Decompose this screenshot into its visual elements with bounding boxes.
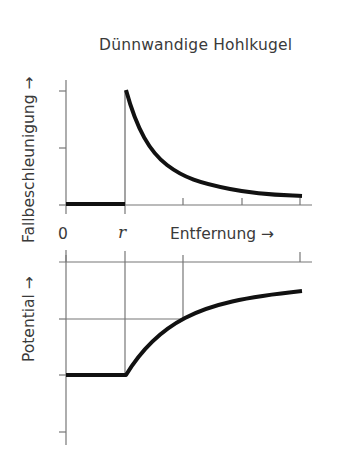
- bottom-chart-curve: [66, 291, 302, 375]
- acceleration-decay-curve: [126, 90, 302, 196]
- bottom-chart-axes: [59, 250, 312, 445]
- top-y-axis-label: Fallbeschleunigung →: [20, 77, 38, 243]
- x-axis-label: Entfernung →: [170, 225, 274, 243]
- bottom-y-axis-label: Potential →: [20, 276, 38, 362]
- potential-curve: [66, 291, 302, 375]
- top-chart-curve: [66, 90, 302, 204]
- x-tick-label-zero: 0: [58, 225, 68, 243]
- x-tick-label-r: r: [118, 222, 126, 242]
